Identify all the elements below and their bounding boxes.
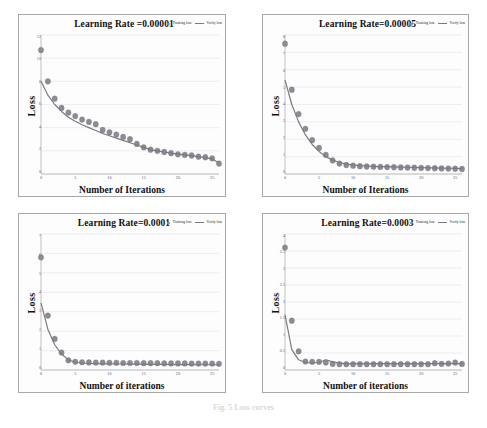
legend-line-icon [438, 23, 447, 24]
training-loss-point [100, 360, 105, 366]
chart-xticks-3: 0510152025 [41, 372, 219, 379]
verify-loss-line [41, 303, 219, 365]
training-loss-point [155, 360, 160, 366]
chart-plot-3 [41, 234, 219, 370]
training-loss-point [203, 361, 208, 367]
training-loss-point [412, 361, 417, 367]
training-loss-point [391, 361, 396, 367]
training-loss-point [120, 134, 125, 140]
chart-xlabel-1: Number of Iterations [19, 185, 225, 195]
training-loss-point [66, 110, 71, 116]
training-loss-point [79, 117, 84, 123]
chart-legend-3: Training loss Verify loss [167, 221, 222, 225]
x-tick-label: 20 [419, 176, 423, 180]
training-loss-point [107, 129, 112, 135]
chart-yticks-1: 121086420 [27, 35, 41, 174]
x-tick-label: 0 [40, 372, 42, 376]
chart-xticks-2: 0510152025 [285, 176, 462, 183]
training-loss-point [384, 361, 389, 367]
training-loss-point [216, 361, 221, 367]
training-loss-point [182, 361, 187, 367]
training-loss-point [310, 359, 315, 365]
chart-legend-1: Training loss Verify loss [167, 22, 222, 26]
chart-plot-2 [285, 35, 462, 174]
chart-panel-4: Learning Rate=0.0003 Training loss Verif… [262, 213, 469, 393]
legend-marker-icon [167, 23, 170, 26]
training-loss-point [45, 313, 50, 319]
chart-yticks-2: 876543210 [271, 35, 285, 174]
x-tick-label: 0 [40, 176, 42, 180]
training-loss-point [93, 121, 98, 127]
legend-line-icon [438, 222, 447, 223]
chart-panel-1: Learning Rate =0.00001 Training loss Ver… [18, 14, 226, 197]
training-loss-point [289, 87, 294, 93]
legend-line-icon [195, 222, 204, 223]
training-loss-point [405, 361, 410, 367]
training-loss-point [141, 360, 146, 366]
legend-line-icon [195, 23, 204, 24]
training-loss-point [127, 136, 132, 142]
training-loss-point [38, 47, 43, 53]
training-loss-point [425, 361, 430, 367]
chart-cell-1: Learning Rate =0.00001 Training loss Ver… [0, 0, 244, 207]
legend-marker-icon [167, 222, 170, 225]
plot-area-3 [41, 234, 219, 370]
chart-cell-2: Learning Rate=0.00005 Training loss Veri… [244, 0, 487, 207]
chart-xticks-4: 0510152025 [285, 372, 462, 379]
training-loss-point [378, 361, 383, 367]
x-tick-label: 20 [176, 372, 180, 376]
training-loss-point [114, 360, 119, 366]
figure-caption: Fig. 5 Loss curves [0, 403, 487, 412]
x-tick-label: 15 [385, 372, 389, 376]
legend-verify-label: Verify loss [207, 221, 222, 225]
verify-loss-line [285, 80, 462, 168]
training-loss-point [175, 361, 180, 367]
training-loss-point [86, 119, 91, 125]
legend-verify-label: Verify loss [450, 22, 465, 26]
chart-panel-2: Learning Rate=0.00005 Training loss Veri… [262, 14, 469, 197]
x-tick-label: 0 [284, 372, 286, 376]
training-loss-point [52, 96, 57, 102]
training-loss-point [282, 245, 287, 251]
x-tick-label: 5 [74, 176, 76, 180]
training-loss-point [127, 360, 132, 366]
plot-area-1 [41, 35, 219, 174]
legend-verify-label: Verify loss [450, 221, 465, 225]
x-tick-label: 0 [284, 176, 286, 180]
training-loss-point [344, 162, 349, 168]
training-loss-point [398, 361, 403, 367]
x-tick-label: 10 [351, 372, 355, 376]
plot-area-4 [285, 234, 462, 370]
chart-legend-4: Training loss Verify loss [410, 221, 465, 225]
legend-training-label: Training loss [416, 221, 435, 225]
chart-cell-4: Learning Rate=0.0003 Training loss Verif… [244, 207, 487, 397]
x-tick-label: 10 [107, 372, 111, 376]
training-loss-point [86, 360, 91, 366]
training-loss-point [453, 360, 458, 366]
training-loss-point [168, 361, 173, 367]
training-loss-point [418, 361, 423, 367]
training-loss-point [357, 361, 362, 367]
training-loss-point [344, 361, 349, 367]
x-tick-label: 20 [419, 372, 423, 376]
chart-xlabel-2: Number of Iterations [263, 185, 468, 195]
training-loss-point [45, 78, 50, 84]
legend-training-label: Training loss [416, 22, 435, 26]
plot-area-2 [285, 35, 462, 174]
legend-training-label: Training loss [173, 22, 192, 26]
chart-panel-3: Learning Rate=0.0001 Training loss Verif… [18, 213, 226, 393]
x-tick-label: 5 [74, 372, 76, 376]
training-loss-point [364, 361, 369, 367]
legend-marker-icon [410, 23, 413, 26]
chart-plot-4 [285, 234, 462, 370]
x-tick-label: 25 [210, 176, 214, 180]
chart-xticks-1: 0510152025 [41, 176, 219, 183]
x-tick-label: 10 [351, 176, 355, 180]
training-loss-point [148, 360, 153, 366]
figure-caption-row: Fig. 5 Loss curves [0, 397, 487, 428]
x-tick-label: 20 [176, 176, 180, 180]
training-loss-point [189, 361, 194, 367]
legend-marker-icon [410, 222, 413, 225]
training-loss-point [73, 113, 78, 119]
training-loss-point [120, 360, 125, 366]
